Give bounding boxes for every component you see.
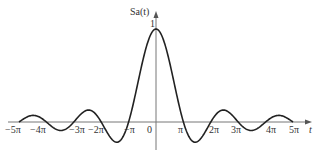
x-tick-neg5pi: −5π <box>5 125 21 135</box>
x-tick-4pi: 4π <box>266 125 276 135</box>
x-axis-label: t <box>309 125 312 135</box>
x-tick-pi: π <box>178 125 183 135</box>
y-axis-label: Sa(t) <box>130 7 149 17</box>
x-tick-2pi: 2π <box>209 125 219 135</box>
y-tick-one: 1 <box>150 19 155 29</box>
x-tick-5pi: 5π <box>289 125 299 135</box>
x-tick-neg4pi: −4π <box>30 125 46 135</box>
x-tick-negpi: −π <box>124 125 135 135</box>
y-axis-arrow-icon <box>154 11 159 18</box>
x-tick-3pi: 3π <box>231 125 241 135</box>
x-tick-neg3pi: −3π <box>69 125 85 135</box>
origin-label: 0 <box>147 125 152 135</box>
x-tick-neg2pi: −2π <box>88 125 104 135</box>
